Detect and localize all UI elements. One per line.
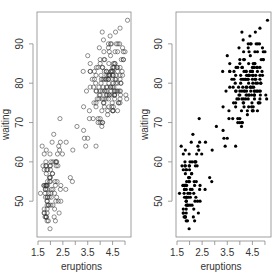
data-point xyxy=(253,97,256,100)
data-point xyxy=(87,109,91,113)
data-point xyxy=(194,160,197,163)
data-point xyxy=(189,196,192,199)
data-point xyxy=(238,62,241,65)
data-point xyxy=(253,50,256,53)
data-point xyxy=(99,81,103,85)
data-point xyxy=(75,124,79,128)
data-point xyxy=(185,180,188,183)
data-point xyxy=(245,86,248,89)
data-point xyxy=(260,70,263,73)
y-tick-label: 90 xyxy=(153,38,164,50)
data-point xyxy=(236,117,239,120)
data-point xyxy=(237,93,240,96)
data-point xyxy=(107,81,111,85)
data-point xyxy=(102,50,106,54)
data-point xyxy=(44,172,48,176)
data-point xyxy=(81,105,85,109)
data-point xyxy=(106,113,110,117)
x-tick-label: 4.5 xyxy=(106,247,120,258)
data-point xyxy=(226,137,229,140)
data-point xyxy=(125,18,129,22)
data-point xyxy=(186,192,189,195)
data-point xyxy=(185,204,188,207)
data-point xyxy=(81,128,85,132)
data-point xyxy=(113,30,117,34)
data-point xyxy=(221,105,224,108)
data-point xyxy=(189,188,192,191)
data-point xyxy=(185,200,188,203)
data-point xyxy=(57,211,61,215)
data-point xyxy=(88,69,92,73)
data-point xyxy=(98,61,102,65)
data-point xyxy=(86,54,90,58)
data-point xyxy=(226,54,229,57)
data-point xyxy=(248,34,251,37)
data-point xyxy=(231,117,234,120)
data-point xyxy=(242,105,245,108)
data-point xyxy=(45,199,49,203)
data-point xyxy=(113,50,117,54)
data-point xyxy=(251,109,254,112)
data-point xyxy=(193,200,196,203)
data-point xyxy=(184,168,187,171)
data-point xyxy=(107,61,111,65)
data-point xyxy=(266,19,269,22)
data-point xyxy=(246,113,249,116)
data-point xyxy=(191,133,194,136)
x-tick-label: 1.5 xyxy=(170,247,184,258)
data-point xyxy=(253,62,256,65)
data-point xyxy=(64,187,68,191)
data-point xyxy=(197,148,200,151)
data-point xyxy=(252,86,255,89)
data-point xyxy=(188,168,191,171)
data-point xyxy=(258,89,261,92)
data-point xyxy=(261,46,264,49)
x-axis-label: eruptions xyxy=(61,261,102,272)
data-point xyxy=(44,160,48,164)
data-point xyxy=(239,74,242,77)
data-point xyxy=(106,97,110,101)
data-point xyxy=(251,82,254,85)
data-point xyxy=(234,145,237,148)
data-point xyxy=(38,191,42,195)
data-point xyxy=(195,152,198,155)
data-point xyxy=(259,82,262,85)
data-points xyxy=(38,18,129,231)
data-point xyxy=(94,105,98,109)
y-axis-label: waiting xyxy=(0,109,11,141)
data-point xyxy=(208,176,211,179)
data-point xyxy=(237,97,240,100)
y-tick-label: 60 xyxy=(14,156,25,168)
left-scatter-panel: 1.52.53.54.5eruptions5060708090waiting xyxy=(0,12,131,272)
data-point xyxy=(184,184,187,187)
data-point xyxy=(263,50,266,53)
data-point xyxy=(249,86,252,89)
data-point xyxy=(200,152,203,155)
data-point xyxy=(190,141,193,144)
y-axis: 5060708090waiting xyxy=(139,38,172,207)
data-point xyxy=(249,89,252,92)
data-point xyxy=(184,172,187,175)
data-point xyxy=(58,187,62,191)
data-point xyxy=(239,82,242,85)
data-point xyxy=(258,97,261,100)
data-point xyxy=(60,152,64,156)
data-point xyxy=(94,81,98,85)
data-point xyxy=(249,42,252,45)
data-point xyxy=(193,219,196,222)
data-point xyxy=(236,121,239,124)
data-point xyxy=(247,46,250,49)
y-tick-label: 70 xyxy=(14,117,25,129)
y-tick-label: 80 xyxy=(153,77,164,89)
data-point xyxy=(118,26,122,30)
data-point xyxy=(58,140,62,144)
data-point xyxy=(115,50,119,54)
data-point xyxy=(237,46,240,49)
data-point xyxy=(198,200,201,203)
data-point xyxy=(55,195,59,199)
data-point xyxy=(70,179,74,183)
data-point xyxy=(261,74,264,77)
data-point xyxy=(94,144,98,148)
data-point xyxy=(258,78,261,81)
data-point xyxy=(190,160,193,163)
